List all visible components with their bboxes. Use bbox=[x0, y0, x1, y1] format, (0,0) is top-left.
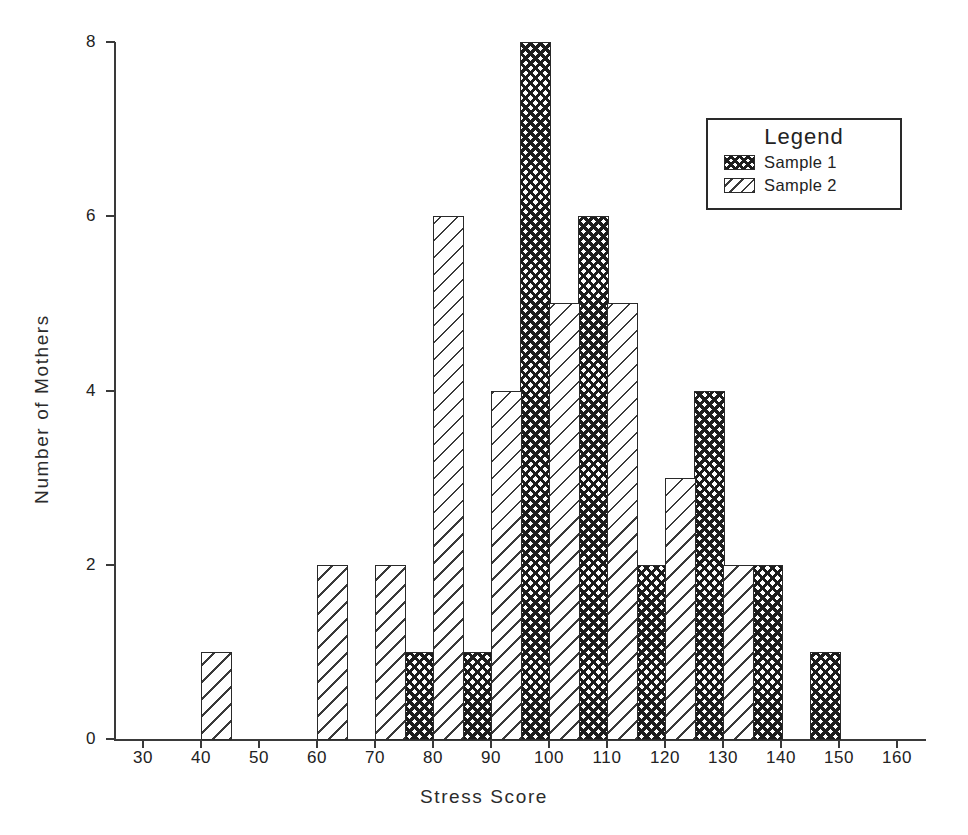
legend-title: Legend bbox=[708, 124, 900, 150]
histogram-bar bbox=[752, 565, 783, 740]
histogram-bar bbox=[201, 652, 232, 740]
x-axis-title: Stress Score bbox=[0, 786, 968, 808]
legend-entry: Sample 1 bbox=[724, 151, 900, 173]
legend-swatch-1-icon bbox=[724, 155, 755, 170]
histogram-bar bbox=[375, 565, 406, 740]
histogram-bar bbox=[462, 652, 493, 740]
chart-canvas: 02468 3040506070809010011012013014015016… bbox=[0, 0, 968, 835]
histogram-bar bbox=[665, 478, 696, 740]
legend-box: Legend Sample 1Sample 2 bbox=[706, 118, 902, 210]
histogram-bar bbox=[549, 303, 580, 740]
histogram-bar bbox=[433, 216, 464, 740]
legend-label: Sample 2 bbox=[764, 176, 837, 195]
histogram-bar bbox=[607, 303, 638, 740]
histogram-bar bbox=[317, 565, 348, 740]
legend-swatch-2-icon bbox=[724, 178, 755, 193]
legend-entry: Sample 2 bbox=[724, 174, 900, 196]
histogram-bar bbox=[636, 565, 667, 740]
histogram-bar bbox=[578, 216, 609, 740]
histogram-bar bbox=[404, 652, 435, 740]
histogram-bar bbox=[491, 391, 522, 741]
legend-label: Sample 1 bbox=[764, 153, 837, 172]
histogram-bar bbox=[520, 42, 551, 740]
histogram-bar bbox=[810, 652, 841, 740]
legend-entries: Sample 1Sample 2 bbox=[708, 151, 900, 196]
histogram-bar bbox=[723, 565, 754, 740]
histogram-bar bbox=[694, 391, 725, 741]
y-axis-title: Number of Mothers bbox=[31, 259, 53, 559]
